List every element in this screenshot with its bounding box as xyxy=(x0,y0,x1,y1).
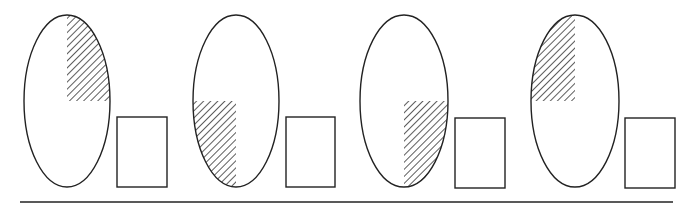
shaded-quadrant-top-right xyxy=(67,15,110,101)
answer-box xyxy=(117,117,167,187)
figure-3 xyxy=(360,15,505,188)
pattern-diagram xyxy=(0,0,693,204)
shaded-quadrant-top-left xyxy=(531,15,575,101)
figure-4 xyxy=(531,15,675,188)
figure-1 xyxy=(24,15,167,187)
answer-box xyxy=(286,117,335,187)
shaded-quadrant-bottom-left xyxy=(193,101,236,187)
figure-2 xyxy=(193,15,335,187)
answer-box xyxy=(455,118,505,188)
shaded-quadrant-bottom-right xyxy=(404,101,448,187)
answer-box xyxy=(625,118,675,188)
